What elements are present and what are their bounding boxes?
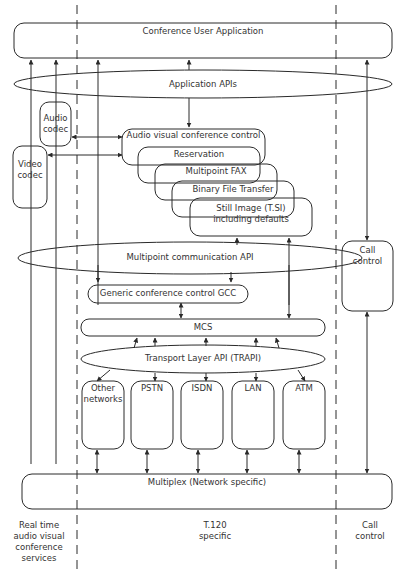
still-image-label: Still Image (T.SI)including defaults — [190, 203, 312, 225]
network-lan-label: LAN — [232, 383, 274, 394]
binary-file-transfer-label: Binary File Transfer — [172, 184, 294, 195]
application-apis-label: Application APIs — [14, 79, 392, 90]
call-control-label: Callcontrol — [342, 245, 393, 267]
video-codec-label: Videocodec — [13, 159, 47, 181]
gcc-label: Generic conference control GCC — [88, 288, 248, 299]
network-atm-label: ATM — [283, 383, 325, 394]
reservation-label: Reservation — [138, 149, 260, 160]
network-pstn-label: PSTN — [131, 383, 173, 394]
mcs-label: MCS — [81, 322, 325, 333]
audio-codec-label: Audiocodec — [40, 113, 71, 135]
column-label-right: Callcontrol — [345, 520, 395, 542]
trapi-label: Transport Layer API (TRAPI) — [81, 353, 325, 364]
multiplex-label: Multiplex (Network specific) — [22, 477, 392, 488]
av-conference-control-label: Audio visual conference control — [122, 130, 265, 141]
network-other-label: Othernetworks — [82, 383, 124, 405]
conference-user-application-label: Conference User Application — [14, 26, 392, 37]
network-isdn-label: ISDN — [181, 383, 223, 394]
multipoint-communication-api-label: Multipoint communication API — [18, 252, 362, 263]
column-label-left: Real timeaudio visualconferenceservices — [8, 520, 70, 564]
multipoint-fax-label: Multipoint FAX — [155, 166, 277, 177]
column-label-middle: T.120specific — [165, 520, 265, 542]
